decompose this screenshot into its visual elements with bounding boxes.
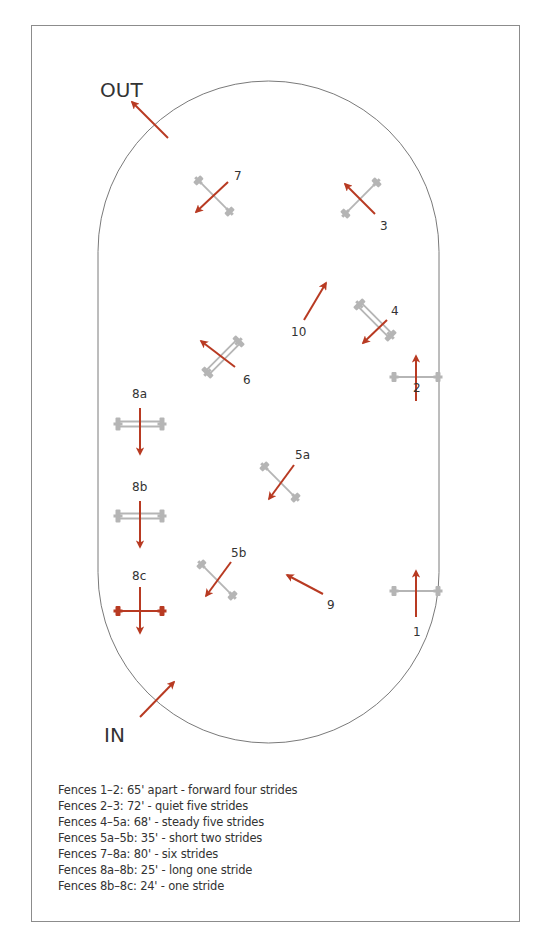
fence-6-label: 6 (243, 373, 251, 387)
arrows-layer (132, 102, 416, 717)
fence-4-label: 4 (391, 304, 399, 318)
fence-3-icon (339, 176, 384, 221)
fence-7-label: 7 (234, 169, 242, 183)
fence-5a-direction-arrow-icon (269, 465, 294, 499)
fence-3-label: 3 (380, 219, 388, 233)
legend-line: Fences 5a–5b: 35' - short two strides (58, 830, 297, 846)
arena-outline (98, 81, 439, 743)
fence-8c-label: 8c (132, 569, 146, 583)
fence-8b-label: 8b (132, 480, 147, 494)
track-10-label: 10 (291, 325, 306, 339)
track-9-arrow-icon (287, 575, 323, 594)
legend-line: Fences 1–2: 65' apart - forward four str… (58, 782, 297, 798)
fence-5b-label: 5b (231, 546, 246, 560)
fences-layer (114, 174, 443, 616)
gate-out-arrow-icon (132, 102, 168, 138)
gate-in-label: IN (104, 723, 125, 747)
distance-legend: Fences 1–2: 65' apart - forward four str… (58, 782, 297, 894)
legend-line: Fences 2–3: 72' - quiet five strides (58, 798, 297, 814)
track-10-arrow-icon (304, 283, 326, 320)
fence-5a-icon (258, 460, 303, 505)
gate-in-arrow-icon (140, 682, 174, 717)
fence-1-label: 1 (413, 625, 421, 639)
legend-line: Fences 8a–8b: 25' - long one stride (58, 862, 297, 878)
legend-line: Fences 7–8a: 80' - six strides (58, 846, 297, 862)
legend-line: Fences 8b–8c: 24' - one stride (58, 878, 297, 894)
gate-out-label: OUT (100, 78, 143, 102)
labels-layer: 12345a5b678a8b8c910OUTIN (100, 78, 421, 747)
fence-7-direction-arrow-icon (196, 182, 228, 212)
fence-8a-label: 8a (132, 387, 147, 401)
fence-5a-label: 5a (295, 448, 310, 462)
fence-2-label: 2 (413, 381, 421, 395)
track-9-label: 9 (327, 598, 335, 612)
legend-line: Fences 4–5a: 68' - steady five strides (58, 814, 297, 830)
